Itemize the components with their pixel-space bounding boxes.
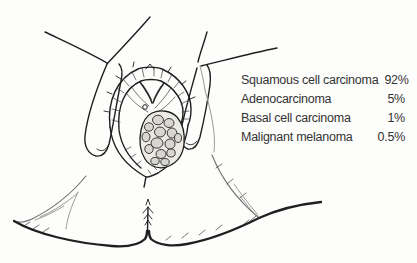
stat-label: Squamous cell carcinoma [241, 71, 378, 90]
stat-row-melanoma: Malignant melanoma 0.5% [241, 128, 405, 147]
stat-value: 0.5% [378, 128, 406, 147]
figure-page: Squamous cell carcinoma 92% Adenocarcino… [0, 0, 417, 263]
incidence-list: Squamous cell carcinoma 92% Adenocarcino… [241, 71, 405, 147]
stat-label: Malignant melanoma [241, 128, 353, 147]
clitoral-hood [127, 82, 175, 113]
stat-value: 5% [387, 90, 405, 109]
buttocks-contour [14, 176, 321, 246]
stat-label: Basal cell carcinoma [241, 109, 351, 128]
stat-value: 1% [387, 109, 405, 128]
stat-row-squamous: Squamous cell carcinoma 92% [241, 71, 405, 90]
natal-cleft [143, 199, 153, 231]
groin-lines [45, 17, 277, 66]
right-finger [180, 65, 210, 149]
stat-label: Adenocarcinoma [241, 90, 331, 109]
stat-row-basal: Basal cell carcinoma 1% [241, 109, 405, 128]
urethra-opening [143, 105, 148, 110]
stat-row-adenocarcinoma: Adenocarcinoma 5% [241, 90, 405, 109]
stat-value: 92% [384, 71, 408, 90]
tumor-mass [140, 111, 184, 168]
